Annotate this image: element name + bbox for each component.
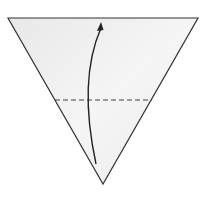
origami-diagram [0,0,212,207]
paper-triangle [8,18,198,184]
